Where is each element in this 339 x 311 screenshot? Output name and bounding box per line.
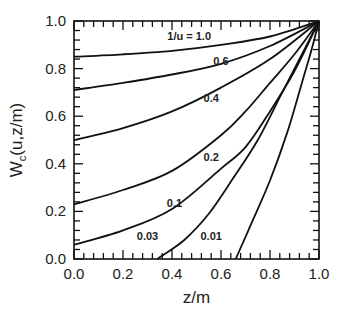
y-tick-label: 1.0 [45,12,66,29]
chart-canvas: 0.00.20.40.60.81.0 0.00.20.40.60.81.0 1/… [0,0,339,311]
y-tick-label: 0.4 [45,155,66,172]
x-tick-label: 0.8 [260,265,281,282]
curve-series [74,21,319,259]
y-axis-title: Wc(u,z/m) [7,103,28,177]
y-tick-label: 0.6 [45,107,66,124]
curve-label: 0.2 [204,151,219,163]
x-tick-label: 0.0 [64,265,85,282]
x-tick-label: 0.6 [211,265,232,282]
y-tick-label: 0.0 [45,250,66,267]
plot-frame [74,21,319,259]
curve-line [157,21,319,259]
y-tick-labels: 0.00.20.40.60.81.0 [45,12,66,267]
curve-label: 0.03 [137,230,158,242]
y-tick-label: 0.8 [45,60,66,77]
curve-label: 0.6 [213,55,228,67]
curve-label: 0.01 [200,230,221,242]
y-tick-label: 0.2 [45,202,66,219]
curve-line [236,21,319,259]
x-tick-labels: 0.00.20.40.60.81.0 [64,265,330,282]
curve-label: 0.1 [167,197,182,209]
curve-label: 1/u = 1.0 [167,30,211,42]
x-axis-title: z/m [183,288,210,307]
axis-ticks [74,21,319,259]
x-tick-label: 0.4 [162,265,183,282]
curve-label: 0.4 [204,92,220,104]
x-tick-label: 0.2 [113,265,134,282]
curve-labels: 1/u = 1.00.60.40.20.10.030.01 [137,30,229,242]
x-tick-label: 1.0 [309,265,330,282]
